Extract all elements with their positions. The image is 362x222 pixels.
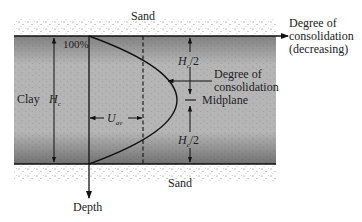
sand-top-label: Sand	[131, 10, 155, 23]
clay-bottom-shading	[14, 132, 276, 164]
hc-half-bottom-label: Hc/2	[178, 134, 199, 152]
sand-bottom-layer	[14, 164, 276, 182]
hc-symbol: H	[49, 92, 58, 106]
clay-top-shading	[14, 36, 276, 64]
midplane-label: Midplane	[202, 94, 248, 107]
uav-label: Uav	[107, 112, 122, 130]
hc-half-bottom-fraction: /2	[190, 133, 199, 147]
x-axis-label: Degree of consolidation (decreasing)	[289, 17, 354, 56]
hc-half-top-symbol: H	[178, 54, 187, 68]
hc-half-bottom-symbol: H	[178, 133, 187, 147]
degree-of-consolidation-label: Degree of consolidation	[214, 68, 279, 94]
hc-subscript: c	[58, 100, 61, 108]
hc-half-top-fraction: /2	[190, 54, 199, 68]
hc-half-top-label: Hc/2	[178, 55, 199, 73]
x-axis-label-line3: (decreasing)	[289, 43, 354, 56]
percent-100-label: 100%	[63, 38, 89, 51]
clay-label: Clay	[17, 93, 40, 106]
hc-label: Hc	[49, 93, 61, 111]
uav-symbol: U	[107, 111, 116, 125]
y-axis-label: Depth	[73, 201, 102, 214]
uav-subscript: av	[116, 119, 123, 127]
sand-bottom-label: Sand	[168, 177, 192, 190]
